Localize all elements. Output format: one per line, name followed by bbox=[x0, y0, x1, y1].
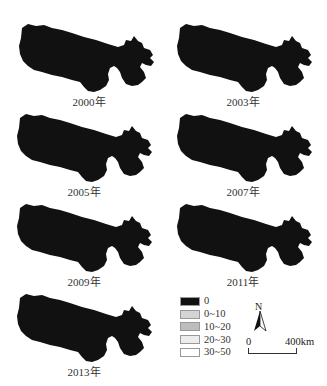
scale-bar: 0 400km bbox=[246, 336, 327, 356]
legend-swatch bbox=[180, 348, 200, 357]
legend-item: 20~30 bbox=[180, 333, 231, 346]
map-panel-2009 bbox=[12, 194, 162, 284]
scale-end-label: 400km bbox=[285, 336, 314, 347]
north-arrow-icon bbox=[252, 311, 268, 333]
map-panel-2005 bbox=[12, 104, 162, 194]
map-panel-2013 bbox=[12, 284, 162, 374]
legend: 0 0~10 10~20 20~30 30~50 bbox=[180, 295, 231, 359]
legend-label: 0~10 bbox=[204, 309, 225, 320]
legend-label: 0 bbox=[204, 296, 209, 307]
region-map bbox=[172, 14, 322, 94]
region-map bbox=[12, 284, 162, 364]
legend-swatch bbox=[180, 297, 200, 306]
map-panel-2003 bbox=[172, 14, 322, 104]
year-label: 2011年 bbox=[168, 273, 318, 289]
map-panel-2011 bbox=[172, 194, 322, 284]
legend-label: 30~50 bbox=[204, 347, 231, 358]
legend-item: 0 bbox=[180, 295, 231, 308]
legend-item: 10~20 bbox=[180, 321, 231, 334]
north-arrow: N bbox=[252, 301, 268, 333]
region-map bbox=[172, 194, 322, 274]
legend-label: 20~30 bbox=[204, 335, 231, 346]
region-map bbox=[12, 194, 162, 274]
legend-swatch bbox=[180, 335, 200, 344]
legend-item: 0~10 bbox=[180, 308, 231, 321]
region-map bbox=[12, 104, 162, 184]
scale-line bbox=[248, 348, 297, 354]
legend-item: 30~50 bbox=[180, 346, 231, 359]
map-panel-2000 bbox=[14, 14, 164, 104]
legend-label: 10~20 bbox=[204, 322, 231, 333]
region-map bbox=[14, 14, 164, 94]
map-panel-2007 bbox=[172, 104, 322, 194]
legend-swatch bbox=[180, 322, 200, 331]
region-map bbox=[172, 104, 322, 184]
scale-start-label: 0 bbox=[246, 336, 251, 347]
year-label: 2013年 bbox=[9, 363, 159, 379]
legend-swatch bbox=[180, 310, 200, 319]
